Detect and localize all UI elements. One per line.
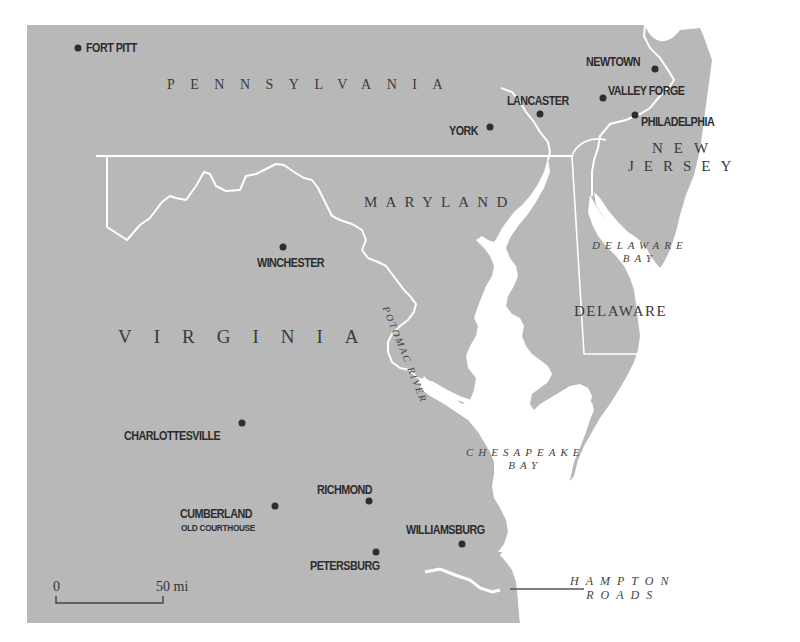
- state-label-delaware: DELAWARE: [574, 304, 667, 319]
- city-dot-lancaster: [537, 111, 544, 118]
- water-label-hampton-roads-line1: HAMPTON: [570, 575, 675, 587]
- state-label-virginia: VIRGINIA: [118, 327, 381, 346]
- city-dot-richmond: [366, 498, 373, 505]
- city-dot-petersburg: [373, 549, 380, 556]
- city-label-richmond: RICHMOND: [317, 484, 372, 497]
- city-label-charlottesville: CHARLOTTESVILLE: [124, 430, 220, 443]
- water-label-chesapeake-bay: CHESAPEAKE BAY: [466, 447, 584, 471]
- scale-label-end: 50 mi: [156, 580, 188, 594]
- water-label-delaware-bay-line1: DELAWARE: [592, 240, 688, 251]
- city-label-lancaster: LANCASTER: [507, 95, 569, 108]
- water-label-chesapeake-bay-line2: BAY: [466, 460, 584, 471]
- water-label-hampton-roads: HAMPTON ROADS: [570, 575, 675, 601]
- water-label-delaware-bay: DELAWARE BAY: [592, 240, 688, 264]
- city-label-valley-forge: VALLEY FORGE: [608, 85, 684, 98]
- city-dot-winchester: [280, 244, 287, 251]
- state-label-new: NEW: [652, 141, 719, 156]
- city-label-cumberland-sub: OLD COURTHOUSE: [181, 523, 255, 533]
- water-label-hampton-roads-line2: ROADS: [570, 589, 675, 601]
- city-dot-valley-forge: [600, 95, 607, 102]
- city-label-winchester: WINCHESTER: [257, 257, 324, 270]
- city-label-fort-pitt: FORT PITT: [86, 42, 137, 55]
- city-label-petersburg: PETERSBURG: [310, 560, 380, 573]
- scale-label-start: 0: [53, 580, 60, 594]
- city-dot-williamsburg: [459, 541, 466, 548]
- city-label-williamsburg: WILLIAMSBURG: [406, 524, 485, 537]
- state-label-jersey: JERSEY: [628, 159, 741, 174]
- state-label-maryland: MARYLAND: [364, 195, 515, 210]
- state-label-pennsylvania: PENNSYLVANIA: [167, 78, 458, 92]
- city-dot-york: [487, 124, 494, 131]
- city-dot-philadelphia: [632, 112, 639, 119]
- city-label-york: YORK: [449, 125, 478, 138]
- city-dot-cumberland: [272, 503, 279, 510]
- city-dot-newtown: [652, 66, 659, 73]
- city-dot-charlottesville: [239, 420, 246, 427]
- water-label-chesapeake-bay-line1: CHESAPEAKE: [466, 447, 584, 458]
- water-label-delaware-bay-line2: BAY: [592, 253, 688, 264]
- city-label-cumberland: CUMBERLAND: [180, 508, 252, 521]
- city-dot-fort-pitt: [75, 45, 82, 52]
- city-label-philadelphia: PHILADELPHIA: [641, 116, 714, 129]
- city-label-newtown: NEWTOWN: [586, 56, 640, 69]
